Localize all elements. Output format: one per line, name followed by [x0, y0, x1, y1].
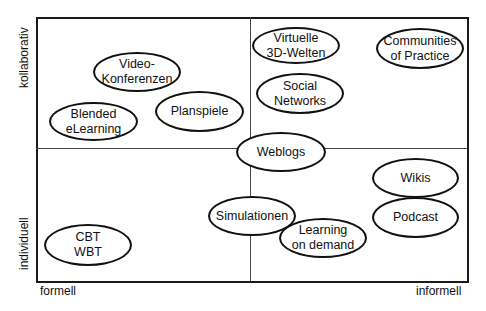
ellipse-video-konferenzen: Video- Konferenzen	[93, 52, 181, 92]
ellipse-communities-of-practice: Communities of Practice	[376, 28, 464, 69]
axis-label-individuell: individuell	[17, 217, 31, 270]
ellipse-weblogs: Weblogs	[236, 132, 326, 172]
axis-label-formell: formell	[40, 284, 76, 298]
ellipse-virtuelle-3d-welten: Virtuelle 3D-Welten	[252, 27, 340, 64]
ellipse-podcast: Podcast	[372, 197, 459, 238]
ellipse-wikis: Wikis	[372, 158, 459, 198]
ellipse-learning-on-demand: Learning on demand	[279, 218, 367, 258]
axis-label-informell: informell	[416, 284, 461, 298]
ellipse-blended-elearning: Blended eLearning	[49, 102, 138, 141]
ellipse-planspiele: Planspiele	[155, 91, 244, 132]
ellipse-social-networks: Social Networks	[256, 73, 344, 114]
axis-label-kollaborativ: kollaborativ	[17, 27, 31, 88]
ellipse-cbt-wbt: CBT WBT	[44, 224, 132, 266]
